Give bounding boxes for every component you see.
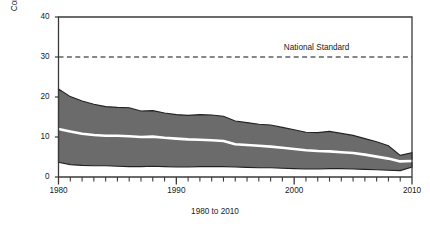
x-tick-label: 1980 [39,186,79,195]
percentile-band [59,89,413,171]
y-axis-label: Concentration ppb [10,0,19,42]
y-tick-label: 0 [30,172,50,181]
x-tick-label: 2000 [274,186,314,195]
x-tick-label: 1990 [156,186,196,195]
y-tick-label: 20 [30,92,50,101]
y-tick-label: 40 [30,12,50,21]
chart-figure: Concentration ppb 1980 to 2010 010203040… [0,0,430,238]
x-axis-label: 1980 to 2010 [0,207,430,216]
y-tick-label: 10 [30,132,50,141]
x-tick-label: 2010 [392,186,430,195]
band-polygon [59,89,413,171]
plot-area [0,0,430,238]
y-tick-label: 30 [30,52,50,61]
threshold-annotation-label: National Standard [284,43,350,52]
